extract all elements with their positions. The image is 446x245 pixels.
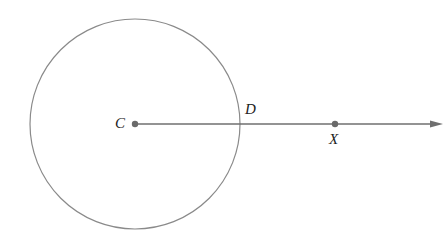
- label-d: D: [245, 102, 256, 117]
- point-x-dot: [332, 121, 338, 127]
- label-c: C: [115, 116, 125, 131]
- arrowhead-icon: [430, 121, 443, 128]
- point-c-dot: [132, 121, 138, 127]
- geometry-diagram: [0, 0, 446, 245]
- label-x: X: [329, 132, 338, 147]
